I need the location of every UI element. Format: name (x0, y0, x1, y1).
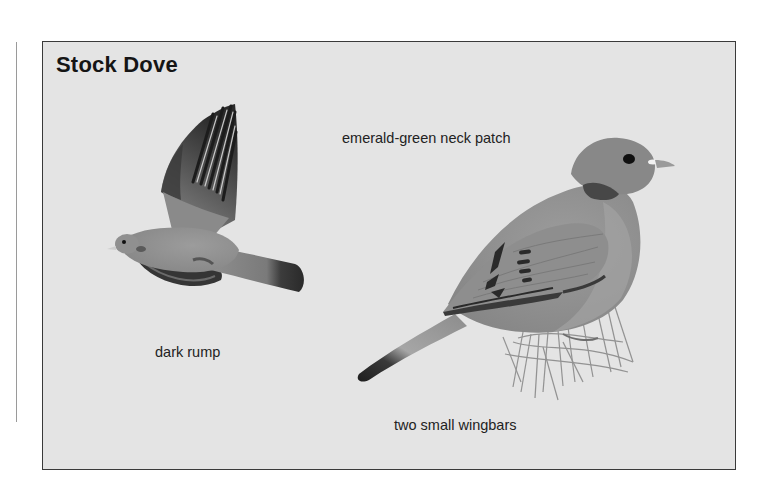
field-guide-plate: Stock Dove (42, 41, 736, 470)
label-dark-rump: dark rump (155, 344, 220, 360)
page-margin-rule (16, 42, 17, 422)
label-wingbars: two small wingbars (394, 417, 517, 433)
flying-dove-illustration (107, 104, 304, 292)
bird-illustrations (43, 42, 737, 471)
perched-dove-illustration (358, 138, 675, 400)
label-neck-patch: emerald-green neck patch (342, 130, 510, 146)
